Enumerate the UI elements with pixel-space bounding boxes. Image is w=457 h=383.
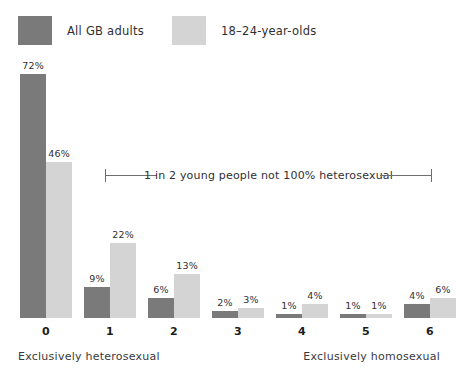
bar-value-18-24-year-olds-6: 6%: [430, 284, 456, 298]
bar-value-18-24-year-olds-0: 46%: [46, 148, 72, 162]
bar-value-18-24-year-olds-4: 4%: [302, 290, 328, 304]
bar-value-all-gb-adults-4: 1%: [276, 300, 302, 314]
bar-group-5: 1% 1%: [340, 58, 392, 318]
bar-all-gb-adults-0: 72%: [20, 74, 46, 318]
bar-18-24-year-olds-3: 3%: [238, 308, 264, 318]
bar-group-0: 72% 46%: [20, 58, 72, 318]
bar-all-gb-adults-6: 4%: [404, 304, 430, 318]
bar-value-18-24-year-olds-3: 3%: [238, 294, 264, 308]
bar-value-all-gb-adults-5: 1%: [340, 300, 366, 314]
axis-caption-exclusively-homosexual: Exclusively homosexual: [303, 350, 440, 363]
kinsey-scale-bar-chart: All GB adults 18–24-year-olds 72% 46% 9%…: [0, 0, 457, 383]
tick-label-6: 6: [404, 325, 456, 338]
annotation-line-right: [380, 175, 432, 176]
bar-value-all-gb-adults-6: 4%: [404, 290, 430, 304]
bar-group-2: 6% 13%: [148, 58, 200, 318]
bar-value-all-gb-adults-1: 9%: [84, 273, 110, 287]
bar-18-24-year-olds-2: 13%: [174, 274, 200, 318]
bar-18-24-year-olds-4: 4%: [302, 304, 328, 318]
bar-group-4: 1% 4%: [276, 58, 328, 318]
bar-all-gb-adults-4: 1%: [276, 314, 302, 318]
bar-value-18-24-year-olds-5: 1%: [366, 300, 392, 314]
bar-group-1: 9% 22%: [84, 58, 136, 318]
bar-value-18-24-year-olds-2: 13%: [174, 260, 200, 274]
bar-all-gb-adults-3: 2%: [212, 311, 238, 318]
tick-label-2: 2: [148, 325, 200, 338]
tick-label-5: 5: [340, 325, 392, 338]
bar-value-all-gb-adults-2: 6%: [148, 284, 174, 298]
bar-18-24-year-olds-5: 1%: [366, 314, 392, 318]
bar-group-3: 2% 3%: [212, 58, 264, 318]
bar-all-gb-adults-1: 9%: [84, 287, 110, 318]
bar-18-24-year-olds-0: 46%: [46, 162, 72, 318]
tick-label-3: 3: [212, 325, 264, 338]
annotation-bracket: 1 in 2 young people not 100% heterosexua…: [105, 165, 432, 186]
tick-label-1: 1: [84, 325, 136, 338]
bar-all-gb-adults-5: 1%: [340, 314, 366, 318]
bar-value-all-gb-adults-3: 2%: [212, 297, 238, 311]
tick-label-4: 4: [276, 325, 328, 338]
tick-label-0: 0: [20, 325, 72, 338]
bar-all-gb-adults-2: 6%: [148, 298, 174, 318]
plot-area: 72% 46% 9% 22% 6% 13%: [0, 0, 457, 383]
bar-18-24-year-olds-6: 6%: [430, 298, 456, 318]
bar-group-6: 4% 6%: [404, 58, 456, 318]
annotation-cap-right: [431, 169, 432, 182]
bar-value-18-24-year-olds-1: 22%: [110, 229, 136, 243]
bar-18-24-year-olds-1: 22%: [110, 243, 136, 318]
axis-caption-exclusively-heterosexual: Exclusively heterosexual: [18, 350, 160, 363]
bar-value-all-gb-adults-0: 72%: [20, 60, 46, 74]
